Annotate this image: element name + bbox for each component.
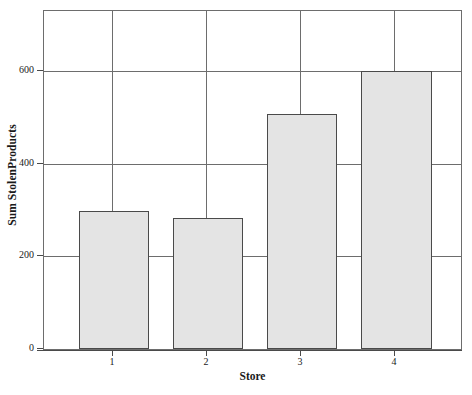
- x-tick-label-1: 1: [97, 356, 127, 367]
- bar-store-4: [361, 71, 432, 349]
- y-tick-mark-200: [37, 255, 43, 256]
- x-axis-title: Store: [43, 370, 462, 382]
- y-axis-title: Sum StolenProducts: [0, 0, 24, 350]
- y-tick-label-0: 0: [0, 342, 37, 353]
- bar-chart: Sum StolenProducts 0 200 400 600 1 2 3 4…: [0, 0, 472, 395]
- bar-store-1: [79, 211, 149, 349]
- y-tick-mark-600: [37, 70, 43, 71]
- x-tick-label-4: 4: [379, 356, 409, 367]
- y-tick-mark-0: [37, 348, 43, 349]
- y-tick-mark-400: [37, 163, 43, 164]
- y-axis-title-text: Sum StolenProducts: [6, 124, 18, 226]
- bar-store-3: [267, 114, 337, 349]
- x-axis-line: [37, 350, 462, 351]
- y-tick-label-200: 200: [0, 249, 37, 260]
- x-tick-label-2: 2: [191, 356, 221, 367]
- x-tick-label-3: 3: [285, 356, 315, 367]
- y-tick-label-400: 400: [0, 157, 37, 168]
- plot-area: [43, 10, 462, 350]
- bar-store-2: [173, 218, 243, 349]
- y-tick-label-600: 600: [0, 64, 37, 75]
